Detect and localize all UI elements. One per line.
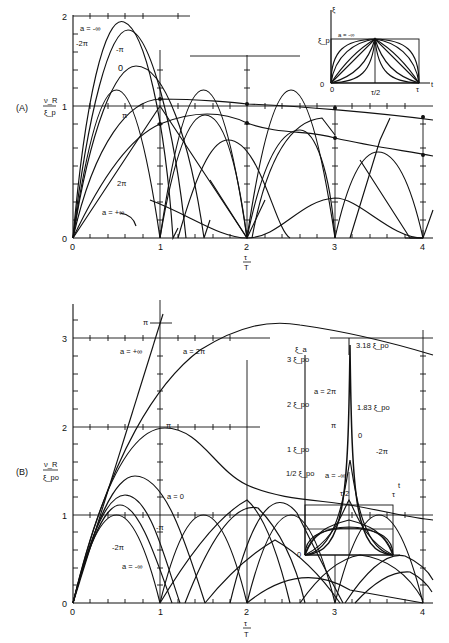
svg-text:0: 0 bbox=[320, 80, 324, 89]
chart-a-xlabel-num: τ bbox=[244, 253, 247, 262]
svg-text:a = 2π: a = 2π bbox=[183, 347, 205, 356]
svg-text:τ: τ bbox=[392, 490, 395, 499]
chart-a-inset: ξ ξ_p 0 0 τ/2 τ t a = -∞ bbox=[318, 5, 434, 97]
svg-text:τ/2: τ/2 bbox=[371, 88, 380, 97]
chart-a-x-ticks bbox=[73, 13, 426, 238]
svg-text:a = 0: a = 0 bbox=[167, 492, 184, 501]
curve-a-mid-1 bbox=[160, 115, 247, 238]
curve-a-mid-7 bbox=[350, 118, 390, 238]
chart-a-ann-neg2pi: -2π bbox=[76, 39, 88, 48]
svg-text:2: 2 bbox=[62, 423, 67, 433]
chart-a-ytick-1: 1 bbox=[62, 102, 67, 112]
curve-a-zero bbox=[73, 66, 210, 238]
svg-text:a = -∞: a = -∞ bbox=[122, 562, 143, 571]
chart-a-ylabel-num: ν_R bbox=[44, 96, 58, 105]
svg-text:ξ_po: ξ_po bbox=[43, 473, 59, 482]
curve-a-mid-9 bbox=[405, 210, 433, 238]
chart-a-xlabel-den: T bbox=[244, 263, 249, 272]
svg-text:ξ_p: ξ_p bbox=[318, 36, 330, 45]
svg-text:ξ_a: ξ_a bbox=[295, 345, 308, 354]
svg-text:τ/2: τ/2 bbox=[340, 489, 349, 498]
svg-text:a = -∞: a = -∞ bbox=[338, 32, 354, 38]
svg-text:t: t bbox=[398, 481, 401, 490]
curve-a-mid-6 bbox=[252, 118, 335, 238]
svg-text:2 ξ_po: 2 ξ_po bbox=[287, 400, 309, 409]
chart-a-ann-pi: π bbox=[122, 111, 127, 120]
curve-a-mid-4 bbox=[178, 140, 290, 238]
svg-text:1.83 ξ_po: 1.83 ξ_po bbox=[357, 403, 390, 412]
chart-a-ann-zero: 0 bbox=[118, 63, 123, 73]
chart-a-xtick-0: 0 bbox=[70, 242, 75, 252]
svg-text:τ: τ bbox=[244, 619, 247, 628]
svg-text:0: 0 bbox=[70, 607, 75, 617]
svg-text:3 ξ_po: 3 ξ_po bbox=[287, 355, 309, 364]
svg-text:0: 0 bbox=[330, 85, 334, 94]
curve-a-mid-2 bbox=[247, 130, 335, 238]
svg-text:0: 0 bbox=[62, 599, 67, 609]
chart-a-ann-2pi: 2π bbox=[117, 179, 126, 188]
chart-a-ann-posinf: a = +∞ bbox=[102, 208, 124, 217]
svg-text:0: 0 bbox=[297, 550, 301, 559]
svg-text:-2π: -2π bbox=[376, 447, 388, 456]
chart-b-curves bbox=[73, 314, 433, 603]
chart-a-ytick-2: 2 bbox=[62, 12, 67, 22]
svg-text:a = +∞: a = +∞ bbox=[120, 347, 142, 356]
svg-text:a = 2π: a = 2π bbox=[314, 387, 336, 396]
chart-a-ann-neginf: a = -∞ bbox=[80, 24, 101, 33]
figure: 2 1 0 0 1 2 3 4 τ T (A) ν_R ξ_p a = -∞ -… bbox=[0, 0, 449, 643]
curve-a-mid-3 bbox=[335, 152, 423, 238]
chart-a-xtick-1: 1 bbox=[158, 242, 163, 252]
curve-a-mid-10 bbox=[360, 160, 423, 238]
chart-a-panel-label: (A) bbox=[16, 103, 28, 113]
chart-a-xtick-4: 4 bbox=[420, 242, 425, 252]
svg-text:-π: -π bbox=[156, 523, 164, 532]
curve-a-mid-8 bbox=[210, 180, 265, 238]
svg-text:-2π: -2π bbox=[112, 543, 124, 552]
chart-b: 3 2 1 0 0 1 2 3 4 τ T (B) ν_R ξ_po π a =… bbox=[16, 300, 433, 639]
chart-a-ylabel-den: ξ_p bbox=[44, 108, 56, 117]
svg-text:1 ξ_po: 1 ξ_po bbox=[287, 445, 309, 454]
chart-a-xtick-3: 3 bbox=[332, 242, 337, 252]
svg-text:4: 4 bbox=[420, 607, 425, 617]
svg-text:(B): (B) bbox=[16, 467, 28, 477]
svg-text:π: π bbox=[166, 421, 171, 430]
chart-a-ann-negpi: -π bbox=[116, 45, 124, 54]
svg-text:3.18 ξ_po: 3.18 ξ_po bbox=[356, 341, 389, 350]
svg-text:3: 3 bbox=[332, 607, 337, 617]
svg-text:τ: τ bbox=[416, 85, 419, 94]
svg-text:0: 0 bbox=[358, 431, 362, 440]
curve-a-neg-pi bbox=[73, 30, 186, 238]
svg-text:π: π bbox=[143, 318, 148, 327]
svg-text:π: π bbox=[331, 421, 336, 430]
svg-text:2: 2 bbox=[244, 607, 249, 617]
svg-text:T: T bbox=[244, 630, 249, 639]
svg-text:1: 1 bbox=[158, 607, 163, 617]
curve-a-mid-5 bbox=[150, 198, 423, 238]
chart-a-curves bbox=[73, 21, 433, 238]
svg-text:t: t bbox=[431, 80, 434, 89]
svg-text:1/2 ξ_po: 1/2 ξ_po bbox=[286, 469, 314, 478]
chart-a-xtick-2: 2 bbox=[244, 242, 249, 252]
svg-text:1: 1 bbox=[62, 511, 67, 521]
chart-a-ytick-0: 0 bbox=[62, 234, 67, 244]
svg-text:ξ: ξ bbox=[332, 5, 336, 14]
svg-text:a = -∞: a = -∞ bbox=[325, 471, 346, 480]
svg-text:ν_R: ν_R bbox=[44, 460, 58, 469]
svg-text:3: 3 bbox=[62, 334, 67, 344]
